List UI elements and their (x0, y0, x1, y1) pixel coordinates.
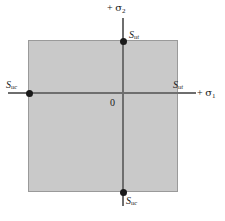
sut-right-subscript: ut (178, 83, 183, 90)
sigma1-subscript: 1 (212, 92, 216, 100)
sigma1-symbol: σ (205, 87, 212, 98)
vertical-axis-sigma2 (122, 18, 124, 206)
point-label-sut-right: Sut (173, 80, 183, 91)
point-marker-sut-top (120, 38, 127, 45)
axis-label-sigma2: + σ2 (107, 3, 125, 15)
point-label-suc-bottom: Suc (126, 196, 137, 207)
point-marker-suc-left (26, 90, 33, 97)
sigma1-plus: + (197, 87, 203, 98)
sigma2-subscript: 2 (122, 7, 126, 15)
point-label-suc-left: Suc (6, 80, 17, 91)
origin-label: 0 (110, 98, 115, 108)
suc-left-subscript: uc (11, 83, 17, 90)
suc-bottom-subscript: uc (131, 199, 137, 206)
point-label-sut-top: Sut (129, 30, 139, 41)
axis-label-sigma1: + σ1 (197, 88, 215, 100)
horizontal-axis-sigma1 (8, 92, 196, 94)
sigma2-plus: + (107, 2, 113, 13)
sut-top-subscript: ut (134, 33, 139, 40)
sigma2-symbol: σ (115, 2, 122, 13)
safe-region-square (28, 40, 178, 192)
stress-failure-envelope-figure: + σ2 Sut Suc Sut + σ1 0 Suc (0, 0, 225, 221)
